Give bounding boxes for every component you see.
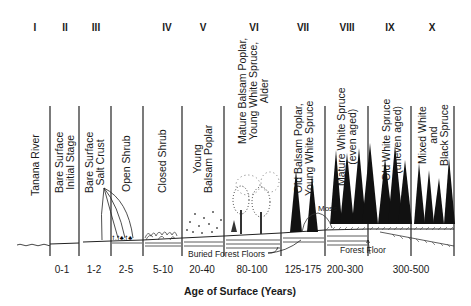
age-label-5: 20-40: [189, 264, 215, 275]
x-axis-title: Age of Surface (Years): [184, 285, 296, 297]
salt-crust-seedlings: ꝉ.ꝉ♣.ꝉ♣: [112, 235, 132, 241]
age-label-2: 1-2: [87, 264, 101, 275]
moss-annotation: Moss: [318, 204, 337, 213]
age-label-7: 125-175: [285, 264, 322, 275]
river-water-icon: [17, 244, 50, 246]
balsam-poplar-trees: [231, 172, 279, 234]
age-label-9: 300-500: [393, 264, 430, 275]
salt-crust-arrows: [101, 188, 133, 240]
age-label-8: 200-300: [327, 264, 364, 275]
young-poplar-stipple: [186, 211, 222, 234]
age-label-6: 80-100: [236, 264, 267, 275]
spruce-trees: [290, 143, 455, 232]
succession-diagram: ꝉ.ꝉ♣.ꝉ♣: [0, 0, 471, 306]
forest-floor-annotation: Forest Floor: [340, 245, 386, 255]
soil-strata: [112, 232, 454, 248]
buried-forest-floors-annotation: Buried Forest Floors: [188, 249, 265, 259]
age-label-4: 5-10: [153, 264, 173, 275]
age-label-3: 2-5: [119, 264, 133, 275]
age-label-1: 0-1: [55, 264, 69, 275]
